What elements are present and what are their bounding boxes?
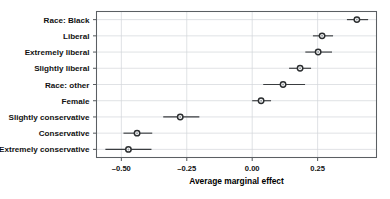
category-label-8: Extremely conservative [0, 145, 90, 154]
coefficient-plot: –0.50–0.250.000.25Race: BlackLiberalExtr… [0, 0, 390, 199]
xtick-label-3: 0.25 [310, 164, 326, 173]
data-point-core-2 [317, 51, 319, 53]
xtick-label-1: –0.25 [177, 164, 197, 173]
category-label-5: Female [62, 97, 90, 106]
data-point-core-8 [127, 148, 129, 150]
data-point-core-6 [179, 116, 181, 118]
data-point-core-0 [356, 19, 358, 21]
data-point-core-4 [282, 84, 284, 86]
category-label-6: Slightly conservative [9, 113, 90, 122]
category-label-7: Conservative [39, 129, 90, 138]
category-label-1: Liberal [63, 32, 90, 41]
data-point-core-3 [299, 67, 301, 69]
data-point-core-5 [260, 100, 262, 102]
category-label-4: Race: other [45, 81, 90, 90]
category-label-2: Extremely liberal [25, 48, 90, 57]
category-label-0: Race: Black [44, 16, 90, 25]
data-point-core-7 [136, 132, 138, 134]
data-point-core-1 [321, 35, 323, 37]
xtick-label-0: –0.50 [112, 164, 131, 173]
xtick-label-2: 0.00 [245, 164, 260, 173]
chart-canvas: –0.50–0.250.000.25Race: BlackLiberalExtr… [0, 0, 390, 199]
category-label-3: Slightly liberal [34, 64, 89, 73]
x-axis-title: Average marginal effect [189, 176, 284, 186]
